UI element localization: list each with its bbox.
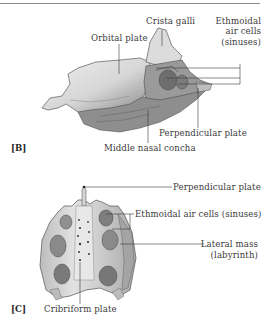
label-lateral-mass-line1: Lateral mass [201, 239, 258, 249]
ethmoid-illustration [0, 0, 269, 320]
label-ethmoidal-air-cells-line3: (sinuses) [221, 37, 261, 47]
panel-c-bone [40, 186, 136, 300]
panel-tag-b: [B] [11, 143, 26, 153]
panel-tag-c: [C] [11, 304, 26, 314]
label-orbital-plate: Orbital plate [91, 33, 148, 43]
label-ethmoidal-air-cells-line1: Ethmoidal [215, 16, 261, 26]
label-crista-galli: Crista galli [146, 16, 195, 26]
label-middle-nasal-concha: Middle nasal concha [104, 143, 196, 153]
panel-b-bone [42, 28, 212, 132]
label-ethmoidal-air-cells-c: Ethmoidal air cells (sinuses) [135, 209, 261, 219]
label-ethmoidal-air-cells-line2: air cells [226, 26, 261, 36]
label-cribriform-plate: Cribriform plate [44, 304, 117, 314]
label-perpendicular-plate-c: Perpendicular plate [173, 182, 261, 192]
label-lateral-mass-line2: (labyrinth) [211, 250, 258, 260]
label-perpendicular-plate-b: Perpendicular plate [159, 128, 247, 138]
